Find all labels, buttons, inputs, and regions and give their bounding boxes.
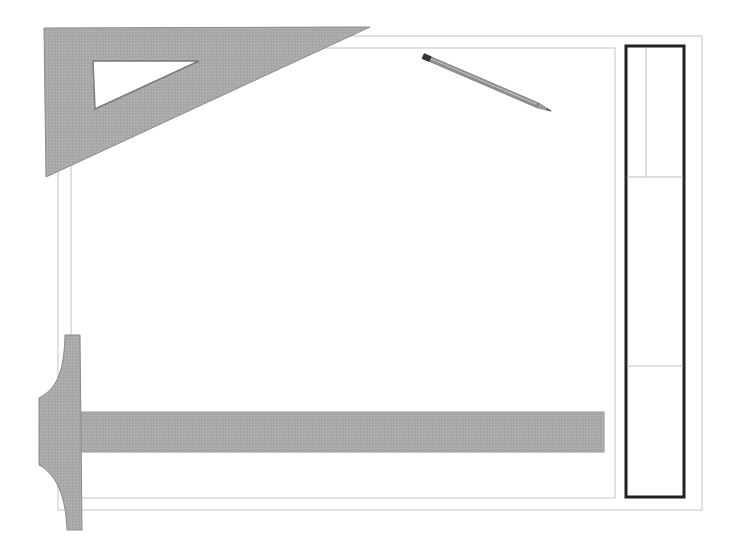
title-block-horizontal-dividers: [627, 177, 683, 366]
t-square-head[interactable]: [39, 335, 82, 530]
t-square-blade[interactable]: [80, 412, 604, 452]
pencil-icon[interactable]: [422, 53, 552, 114]
drafting-canvas: [0, 0, 734, 554]
pencil-sharpened-wood: [537, 103, 552, 113]
title-block[interactable]: [626, 46, 684, 497]
drafting-scene: Drafting board with set square, T-square…: [0, 0, 734, 554]
set-square-body[interactable]: [44, 27, 370, 177]
pencil-highlight: [431, 59, 537, 105]
t-square[interactable]: [39, 335, 604, 530]
title-block-frame[interactable]: [626, 46, 684, 497]
pencil-body: [422, 54, 539, 108]
set-square[interactable]: [44, 27, 370, 177]
